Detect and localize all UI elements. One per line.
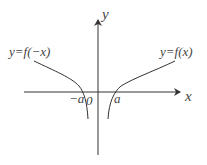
curve-label-f-x: y=f(x) <box>158 44 193 59</box>
y-axis-label: y <box>100 6 109 22</box>
curve-label-f-neg-x: y=f(−x) <box>7 44 50 59</box>
curve-f-x <box>108 61 175 119</box>
origin-label: 0 <box>86 93 93 108</box>
x-axis-label: x <box>184 88 192 104</box>
tick-pos-a: a <box>114 91 121 106</box>
curve-f-neg-x <box>34 61 88 119</box>
function-graph: y x 0 −a a y=f(−x) y=f(x) <box>0 0 207 165</box>
tick-neg-a: −a <box>69 91 85 106</box>
